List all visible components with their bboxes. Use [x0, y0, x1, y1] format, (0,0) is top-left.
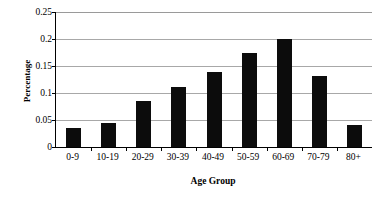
- y-tick-mark: [52, 93, 56, 94]
- bar: [171, 87, 186, 147]
- x-tick-label: 0-9: [55, 152, 90, 163]
- bar: [66, 128, 81, 147]
- y-tick-mark: [52, 66, 56, 67]
- gridline: [56, 39, 372, 40]
- x-tick-mark: [302, 147, 303, 151]
- x-tick-mark: [196, 147, 197, 151]
- bar: [207, 72, 222, 147]
- y-tick-label: 0.05: [12, 115, 52, 125]
- bar-chart: Percentage 00.050.10.150.20.25 0-910-192…: [0, 0, 383, 201]
- x-tick-label: 80+: [336, 152, 371, 163]
- y-tick-mark: [52, 12, 56, 13]
- x-tick-label: 20-29: [125, 152, 160, 163]
- x-tick-mark: [126, 147, 127, 151]
- bar: [312, 76, 327, 147]
- y-tick-label: 0.2: [12, 34, 52, 44]
- x-tick-mark: [232, 147, 233, 151]
- y-axis-tick-labels: 00.050.10.150.20.25: [12, 0, 52, 201]
- y-tick-mark: [52, 39, 56, 40]
- x-tick-label: 30-39: [160, 152, 195, 163]
- x-axis-title: Age Group: [55, 176, 371, 186]
- bar: [277, 39, 292, 147]
- bar: [242, 53, 257, 147]
- y-tick-label: 0.1: [12, 88, 52, 98]
- x-tick-mark: [91, 147, 92, 151]
- y-tick-mark: [52, 120, 56, 121]
- x-tick-label: 60-69: [266, 152, 301, 163]
- x-tick-mark: [161, 147, 162, 151]
- x-tick-label: 50-59: [231, 152, 266, 163]
- x-tick-label: 10-19: [90, 152, 125, 163]
- y-tick-label: 0.15: [12, 61, 52, 71]
- x-axis-tick-labels: 0-910-1920-2930-3940-4950-5960-6970-7980…: [55, 152, 371, 168]
- gridline: [56, 12, 372, 13]
- x-tick-label: 40-49: [195, 152, 230, 163]
- y-tick-mark: [52, 147, 56, 148]
- y-tick-label: 0.25: [12, 7, 52, 17]
- bar: [101, 123, 116, 147]
- x-tick-mark: [267, 147, 268, 151]
- bar: [136, 101, 151, 147]
- y-tick-label: 0: [12, 142, 52, 152]
- x-tick-label: 70-79: [301, 152, 336, 163]
- x-tick-mark: [337, 147, 338, 151]
- plot-area: [55, 12, 372, 148]
- bar: [347, 125, 362, 147]
- gridline: [56, 66, 372, 67]
